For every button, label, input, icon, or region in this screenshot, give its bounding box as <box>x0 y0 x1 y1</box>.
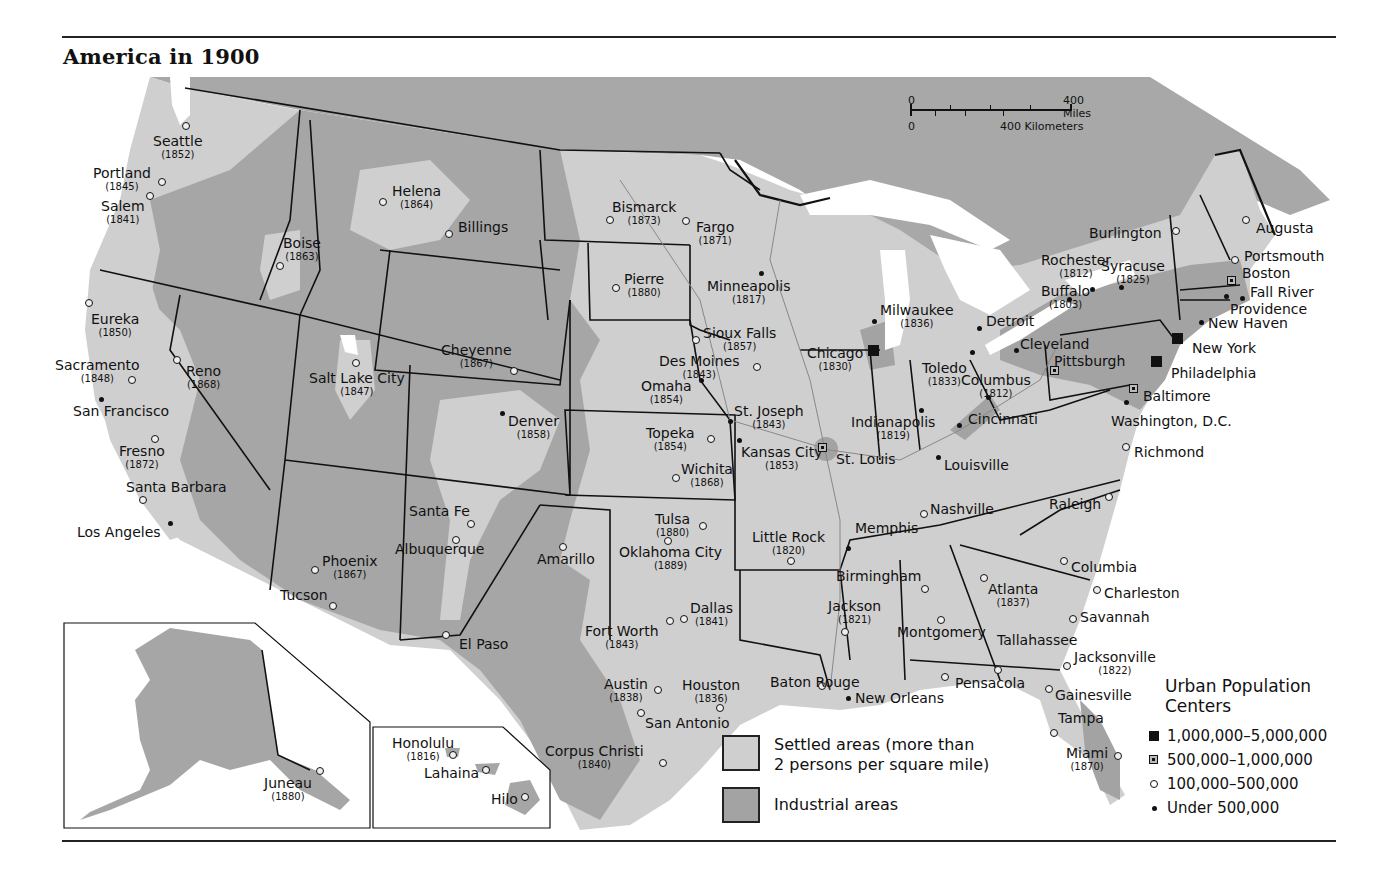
city-marker-small-icon <box>841 628 849 636</box>
city-marker-small-icon <box>666 617 674 625</box>
city-name: Montgomery <box>897 624 986 640</box>
city-name: Pierre <box>624 271 664 287</box>
city-name: Seattle <box>153 133 203 149</box>
city-name: Hilo <box>491 791 518 807</box>
city-name: Jackson <box>828 598 881 614</box>
city-name: Atlanta <box>988 581 1038 597</box>
city-marker-tiny-icon <box>99 397 104 402</box>
urban-legend-title-1: Urban Population <box>1165 676 1327 696</box>
city-marker-small-icon <box>994 666 1002 674</box>
city-founded-year: (1840) <box>545 759 644 770</box>
city-label: Cincinnati <box>968 412 1038 427</box>
city-marker-tiny-icon <box>1124 400 1129 405</box>
city-marker-tiny-icon <box>1240 296 1245 301</box>
area-legend: Settled areas (more than 2 persons per s… <box>722 735 989 835</box>
city-founded-year: (1873) <box>612 215 676 226</box>
city-marker-tiny-icon <box>737 438 742 443</box>
city-marker-small-icon <box>654 686 662 694</box>
scale-tick <box>950 105 951 111</box>
city-name: Savannah <box>1080 609 1150 625</box>
city-marker-small-icon <box>559 543 567 551</box>
city-founded-year: (1867) <box>322 569 378 580</box>
city-founded-year: (1847) <box>309 386 405 397</box>
city-marker-small-icon <box>1122 443 1130 451</box>
city-marker-small-icon <box>692 336 700 344</box>
scale-tick <box>990 105 991 111</box>
city-marker-small-icon <box>521 793 529 801</box>
city-label: Cleveland <box>1020 337 1089 352</box>
city-name: Memphis <box>855 520 918 536</box>
city-founded-year: (1843) <box>585 639 659 650</box>
city-name: Cleveland <box>1020 336 1089 352</box>
city-founded-year: (1833) <box>922 376 967 387</box>
city-label: Wichita(1868) <box>681 462 733 488</box>
city-marker-tiny-icon <box>1224 294 1229 299</box>
city-name: Omaha <box>641 378 692 394</box>
city-marker-tiny-icon <box>919 408 924 413</box>
city-marker-tiny-icon <box>168 521 173 526</box>
city-name: Houston <box>682 677 740 693</box>
city-marker-tiny-icon <box>936 455 941 460</box>
city-marker-small-icon <box>980 574 988 582</box>
city-marker-small-icon <box>442 631 450 639</box>
city-label: Salt Lake City(1847) <box>309 371 405 397</box>
city-label: New Haven <box>1208 316 1288 331</box>
city-name: Tulsa <box>655 511 690 527</box>
city-marker-big-icon <box>1172 333 1183 344</box>
city-marker-tiny-icon <box>759 271 764 276</box>
city-founded-year: (1852) <box>153 149 203 160</box>
urban-legend-row: 500,000–1,000,000 <box>1148 748 1327 772</box>
city-label: Louisville <box>944 458 1009 473</box>
city-marker-small-icon <box>1050 729 1058 737</box>
city-name: Lahaina <box>424 765 479 781</box>
city-founded-year: (1868) <box>681 477 733 488</box>
city-marker-small-icon <box>352 359 360 367</box>
city-marker-mid-icon <box>1129 384 1138 393</box>
city-label: Chicago(1830) <box>807 346 863 372</box>
open-circle-icon <box>1148 778 1160 790</box>
city-label: San Francisco <box>73 404 169 419</box>
city-marker-mid-icon <box>1227 276 1236 285</box>
city-marker-small-icon <box>139 496 147 504</box>
city-label: Fall River <box>1250 285 1314 300</box>
scale-tick <box>935 110 936 116</box>
city-founded-year: (1812) <box>961 388 1031 399</box>
city-founded-year: (1837) <box>988 597 1038 608</box>
city-name: Fresno <box>119 443 165 459</box>
city-name: Kansas City <box>741 444 822 460</box>
city-name: Dallas <box>690 600 733 616</box>
city-marker-small-icon <box>672 474 680 482</box>
city-name: Topeka <box>646 425 695 441</box>
city-label: Seattle(1852) <box>153 134 203 160</box>
city-marker-small-icon <box>937 616 945 624</box>
city-marker-small-icon <box>445 230 453 238</box>
city-name: St. Louis <box>836 451 895 467</box>
city-founded-year: (1850) <box>91 327 139 338</box>
city-marker-tiny-icon <box>1119 285 1124 290</box>
city-label: Kansas City(1853) <box>741 445 822 471</box>
city-founded-year: (1872) <box>119 459 165 470</box>
city-label: Gainesville <box>1055 688 1132 703</box>
city-name: Santa Fe <box>409 503 470 519</box>
city-name: Baton Rouge <box>770 674 860 690</box>
city-label: Des Moines(1843) <box>659 354 739 380</box>
city-name: Corpus Christi <box>545 743 644 759</box>
city-founded-year: (1830) <box>807 361 863 372</box>
city-marker-small-icon <box>151 435 159 443</box>
city-label: Omaha(1854) <box>641 379 692 405</box>
city-label: Detroit <box>986 314 1034 329</box>
city-name: Sioux Falls <box>703 325 776 341</box>
city-marker-small-icon <box>329 602 337 610</box>
city-marker-small-icon <box>680 615 688 623</box>
city-label: Minneapolis(1817) <box>707 279 790 305</box>
city-label: Augusta <box>1256 221 1314 236</box>
city-name: Detroit <box>986 313 1034 329</box>
city-founded-year: (1825) <box>1101 274 1165 285</box>
city-name: Tampa <box>1058 710 1104 726</box>
city-name: Wichita <box>681 461 733 477</box>
bottom-rule <box>62 840 1336 842</box>
city-founded-year: (1867) <box>441 358 512 369</box>
city-label: New Orleans <box>855 691 944 706</box>
city-name: Fall River <box>1250 284 1314 300</box>
city-label: Amarillo <box>537 552 595 567</box>
